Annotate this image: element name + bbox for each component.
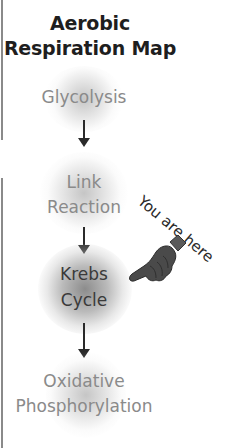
stage-label-line-2: Cycle (0, 288, 168, 313)
stage-label-line-1: Link (0, 170, 168, 195)
stage-label: Glycolysis (0, 85, 168, 110)
title-line-2: Respiration Map (0, 37, 180, 59)
arrow-down-icon (83, 120, 85, 145)
stage-label-line-1: Oxidative (0, 369, 168, 394)
pointing-hand-icon (126, 232, 192, 290)
stage-label-line-2: Phosphorylation (0, 394, 168, 419)
title-line-1: Aerobic (0, 12, 180, 34)
